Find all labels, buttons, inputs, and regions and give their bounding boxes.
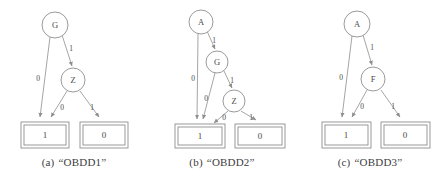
edge-low-to-one (214, 111, 228, 123)
panel-c-caption-tag: (c) (338, 156, 351, 168)
panel-a-caption-tag: (a) (42, 156, 55, 168)
edge-label-mid-one: 1 (391, 102, 395, 111)
obdd-graph-a: G Z 1 0 0 1 0 1 (0, 0, 148, 150)
edge-label-low-one: 1 (249, 113, 253, 122)
edge-label-root-zero: 0 (36, 74, 40, 83)
edge-label-mid-zero: 0 (204, 94, 208, 103)
node-mid-label: Z (70, 75, 75, 85)
panel-c-caption: (c)“OBDD3” (296, 156, 444, 168)
edge-label-root-one: 1 (69, 44, 73, 53)
edge-label-low-zero: 0 (222, 113, 226, 122)
terminal-zero-label: 0 (403, 130, 408, 140)
edge-root-to-one (40, 37, 50, 117)
obdd-panel-a: G Z 1 0 0 1 0 1 (a)“OBDD1” (0, 0, 148, 188)
edge-label-root-one: 1 (212, 36, 216, 45)
edge-label-mid-one: 1 (230, 76, 234, 85)
node-root-label: G (52, 20, 58, 30)
panel-b-caption-tag: (b) (189, 156, 202, 168)
node-mid-label: F (371, 74, 376, 84)
edge-root-to-one (197, 34, 198, 119)
obdd-graph-c: A F 1 0 0 1 0 1 (296, 0, 444, 150)
panel-b-caption: (b)“OBDD2” (148, 156, 296, 168)
obdd-panel-c: A F 1 0 0 1 0 1 (c)“OBDD3” (296, 0, 444, 188)
terminal-one-label: 1 (198, 131, 203, 141)
node-mid-label: G (214, 57, 220, 67)
terminal-one-label: 1 (344, 130, 349, 140)
edge-label-mid-zero: 0 (60, 103, 64, 112)
panel-a-caption-name: “OBDD1” (58, 156, 106, 168)
node-root-label: A (354, 19, 361, 29)
edge-label-mid-zero: 0 (360, 102, 364, 111)
terminal-zero-label: 0 (258, 131, 263, 141)
obdd-figure: G Z 1 0 0 1 0 1 (a)“OBDD1” (0, 0, 444, 188)
edge-label-root-zero: 0 (191, 74, 195, 83)
panel-b-caption-name: “OBDD2” (207, 156, 255, 168)
obdd-graph-b: A G Z 1 0 0 1 0 1 0 1 (148, 0, 296, 150)
edge-root-to-one (342, 36, 352, 117)
obdd-panel-b: A G Z 1 0 0 1 0 1 0 1 (b)“OBDD2” (148, 0, 296, 188)
node-root-label: A (198, 17, 205, 27)
panel-a-caption: (a)“OBDD1” (0, 156, 148, 168)
terminal-one-label: 1 (43, 130, 48, 140)
node-low-label: Z (231, 96, 236, 106)
panel-c-caption-name: “OBDD3” (354, 156, 402, 168)
edge-label-root-zero: 0 (339, 73, 343, 82)
edge-label-mid-one: 1 (90, 103, 94, 112)
edge-mid-to-one (51, 91, 67, 117)
edge-label-root-one: 1 (370, 43, 374, 52)
terminal-zero-label: 0 (102, 130, 107, 140)
